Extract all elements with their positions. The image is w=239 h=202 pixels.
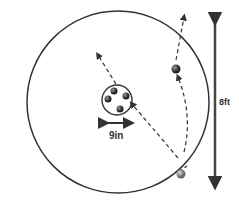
shooter-ball xyxy=(177,170,186,179)
hole-width-label: 9in xyxy=(109,130,123,141)
diameter-label: 8ft xyxy=(219,97,230,107)
trajectory-path xyxy=(178,77,187,152)
hole-ball xyxy=(117,106,124,113)
hole-ball xyxy=(111,88,118,95)
hole-ball xyxy=(123,93,130,100)
trajectory-path xyxy=(98,55,116,84)
hole-ball xyxy=(105,96,112,103)
target-ball xyxy=(172,65,181,74)
trajectory-path xyxy=(132,104,178,158)
diagram-canvas xyxy=(0,0,239,202)
